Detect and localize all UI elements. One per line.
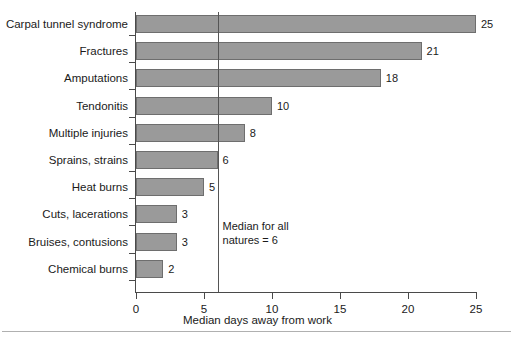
median-annotation-line2: natures = 6 <box>223 233 289 247</box>
bar[interactable] <box>136 42 422 60</box>
bar-value-label: 3 <box>182 206 188 222</box>
x-axis-title: Median days away from work <box>0 314 515 326</box>
plot-area: Carpal tunnel syndrome25Fractures21Amput… <box>136 12 476 292</box>
y-axis-tick <box>129 171 136 172</box>
category-label: Tendonitis <box>0 98 128 114</box>
bar-value-label: 25 <box>481 16 493 32</box>
median-annotation: Median for all natures = 6 <box>223 219 289 247</box>
category-label: Sprains, strains <box>0 152 128 168</box>
bar-row: Chemical burns2 <box>136 259 476 286</box>
bar-value-label: 6 <box>223 152 229 168</box>
category-label: Amputations <box>0 70 128 86</box>
x-axis-tick <box>136 292 137 299</box>
category-label: Heat burns <box>0 179 128 195</box>
category-label-wrap: Fractures <box>0 41 128 61</box>
bar-value-label: 18 <box>386 70 398 86</box>
category-label-wrap: Bruises, contusions <box>0 232 128 252</box>
category-label: Fractures <box>0 43 128 59</box>
bar-row: Multiple injuries8 <box>136 123 476 150</box>
chart-figure: Carpal tunnel syndrome25Fractures21Amput… <box>0 0 515 346</box>
bar-value-label: 3 <box>182 234 188 250</box>
category-label-wrap: Cuts, lacerations <box>0 204 128 224</box>
bar-row: Heat burns5 <box>136 177 476 204</box>
category-label-wrap: Chemical burns <box>0 259 128 279</box>
bar-row: Carpal tunnel syndrome25 <box>136 14 476 41</box>
category-label: Carpal tunnel syndrome <box>0 16 128 32</box>
y-axis-tick <box>129 117 136 118</box>
category-label: Cuts, lacerations <box>0 206 128 222</box>
bar-value-label: 5 <box>209 179 215 195</box>
category-label: Bruises, contusions <box>0 234 128 250</box>
x-axis-line <box>135 292 477 293</box>
bar-value-label: 21 <box>427 43 439 59</box>
bottom-divider <box>2 331 511 332</box>
y-axis-tick <box>129 280 136 281</box>
category-label-wrap: Sprains, strains <box>0 150 128 170</box>
y-axis-tick <box>129 225 136 226</box>
bar-row: Fractures21 <box>136 41 476 68</box>
x-axis-tick <box>272 292 273 299</box>
bar[interactable] <box>136 124 245 142</box>
category-label: Chemical burns <box>0 261 128 277</box>
bar-row: Tendonitis10 <box>136 96 476 123</box>
category-label-wrap: Heat burns <box>0 177 128 197</box>
median-reference-line <box>218 12 219 292</box>
y-axis-tick <box>129 62 136 63</box>
bar[interactable] <box>136 69 381 87</box>
category-label-wrap: Amputations <box>0 68 128 88</box>
bar[interactable] <box>136 178 204 196</box>
y-axis-tick <box>129 198 136 199</box>
category-label-wrap: Multiple injuries <box>0 123 128 143</box>
y-axis-tick <box>129 253 136 254</box>
bar-value-label: 8 <box>250 125 256 141</box>
bar[interactable] <box>136 260 163 278</box>
bar-row: Bruises, contusions3 <box>136 232 476 259</box>
bar[interactable] <box>136 151 218 169</box>
category-label-wrap: Tendonitis <box>0 96 128 116</box>
x-axis-tick <box>408 292 409 299</box>
x-axis-tick <box>204 292 205 299</box>
category-label-wrap: Carpal tunnel syndrome <box>0 14 128 34</box>
y-axis-tick <box>129 89 136 90</box>
y-axis-tick <box>129 35 136 36</box>
y-axis-tick <box>129 144 136 145</box>
bar[interactable] <box>136 233 177 251</box>
bar[interactable] <box>136 205 177 223</box>
bar-value-label: 2 <box>168 261 174 277</box>
bar[interactable] <box>136 97 272 115</box>
bar[interactable] <box>136 15 476 33</box>
bar-row: Sprains, strains6 <box>136 150 476 177</box>
bar-value-label: 10 <box>277 98 289 114</box>
x-axis-tick <box>476 292 477 299</box>
x-axis-tick <box>340 292 341 299</box>
category-label: Multiple injuries <box>0 125 128 141</box>
median-annotation-line1: Median for all <box>223 219 289 233</box>
bar-row: Amputations18 <box>136 68 476 95</box>
bar-row: Cuts, lacerations3 <box>136 204 476 231</box>
